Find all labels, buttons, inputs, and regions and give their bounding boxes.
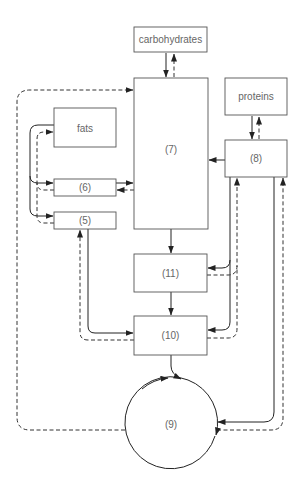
edge-8-to-9 [218,177,274,422]
node-label: (9) [165,419,177,430]
node-label: (11) [162,268,179,279]
node-5: (5) [54,212,116,229]
node-11: (11) [134,254,207,292]
edge-fats-to-6-5 [30,125,54,183]
node-label: carbohydrates [139,34,202,45]
metabolism-diagram: carbohydrates (7) proteins (8) fats (6) … [0,0,303,499]
node-proteins: proteins [225,78,287,115]
edge-10-to-8-dashed [207,266,237,338]
node-label: (7) [165,144,177,155]
node-8: (8) [225,140,287,177]
node-label: (8) [250,153,262,164]
edge-8-to-11 [208,177,230,268]
edge-10-to-9 [171,355,181,379]
node-9: (9) [165,419,177,430]
node-label: (6) [79,182,91,193]
edge-8-to-10 [208,260,230,330]
node-carbohydrates: carbohydrates [134,27,207,52]
edge-5-to-10 [88,229,133,333]
node-label: (5) [79,215,91,226]
cycle-9-arc-right [188,380,218,435]
node-label: fats [77,123,93,134]
node-fats: fats [54,108,116,147]
node-10: (10) [134,316,207,355]
edge-11-to-8-dashed [207,178,237,275]
node-label: proteins [238,91,274,102]
edge-9-to-8-dashed [217,178,283,430]
node-7: (7) [134,78,208,229]
node-label: (10) [162,330,180,341]
node-6: (6) [54,179,116,196]
edge-6-to-fats-dashed [37,132,54,190]
